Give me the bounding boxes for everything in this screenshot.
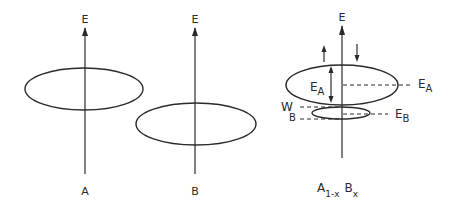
arrow-up-icon xyxy=(329,66,334,73)
arrow-down-icon xyxy=(329,96,334,103)
axis-label-a: E xyxy=(82,13,89,26)
arrow-up-icon xyxy=(322,45,327,52)
arrow-down-icon xyxy=(355,55,360,62)
caption-alloy: A1-xBx xyxy=(317,181,359,199)
panel-b: E B xyxy=(136,13,256,198)
panel-alloy: E EA EA WB EB A1-xBx xyxy=(281,11,433,199)
wb-label: WB xyxy=(281,100,296,123)
band-ellipse-b xyxy=(136,103,256,145)
arrow-up-icon xyxy=(339,25,345,35)
arrow-up-icon xyxy=(82,27,88,36)
inner-ea-label: EA xyxy=(310,80,325,97)
band-diagram: E A E B E EA EA WB xyxy=(0,0,451,205)
arrow-up-icon xyxy=(192,27,198,36)
band-ellipse-b-alloy xyxy=(312,107,370,119)
right-eb-label: EB xyxy=(395,107,410,124)
caption-b: B xyxy=(191,185,199,198)
axis-label-b: E xyxy=(192,13,199,26)
axis-label-alloy: E xyxy=(339,11,346,24)
panel-a: E A xyxy=(25,13,143,198)
band-ellipse-a xyxy=(25,68,143,110)
right-ea-label: EA xyxy=(418,77,433,94)
caption-a: A xyxy=(81,185,89,198)
